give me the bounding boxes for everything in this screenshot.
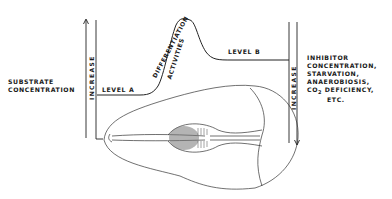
left-increase-label: INCREASE	[88, 55, 95, 100]
inhibitor-label: INHIBITOR CONCENTRATION, STARVATION, ANA…	[307, 54, 377, 104]
right-increase-label: INCREASE	[290, 65, 297, 110]
embryo-drawing	[104, 85, 298, 189]
activity-curve	[97, 19, 289, 95]
embryo-ribs	[198, 128, 207, 148]
embryo-stipple	[169, 126, 199, 150]
level-b-label: LEVEL B	[228, 48, 260, 56]
substrate-concentration-label: SUBSTRATE CONCENTRATION	[8, 78, 75, 94]
level-a-label: LEVEL A	[102, 86, 134, 94]
